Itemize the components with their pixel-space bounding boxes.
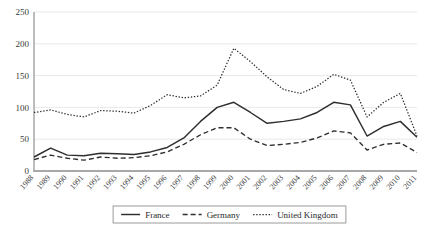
x-tick-label-2005: 2005: [301, 173, 318, 191]
x-tick-label-2011: 2011: [401, 173, 418, 191]
x-tick-label-1994: 1994: [118, 173, 135, 191]
x-tick-label-1989: 1989: [35, 173, 52, 191]
x-tick-label-1992: 1992: [85, 173, 102, 191]
x-tick-label-1996: 1996: [151, 173, 168, 191]
x-tick-label-1990: 1990: [51, 173, 68, 191]
y-tick-label-50: 50: [20, 134, 30, 144]
x-tick-label-2010: 2010: [384, 173, 401, 191]
x-tick-label-2002: 2002: [251, 173, 268, 191]
x-tick-label-1991: 1991: [68, 173, 85, 191]
x-tick-label-2006: 2006: [318, 173, 335, 191]
x-tick-label-2003: 2003: [268, 173, 285, 191]
x-tick-label-1997: 1997: [168, 173, 185, 191]
y-tick-label-100: 100: [16, 103, 30, 113]
x-tick-label-2000: 2000: [218, 173, 235, 191]
legend-label-germany: Germany: [207, 210, 241, 220]
legend-label-united-kingdom: United Kingdom: [277, 210, 338, 220]
x-tick-label-1998: 1998: [185, 173, 202, 191]
line-chart: 0501001502002501988198919901991199219931…: [0, 0, 426, 233]
y-tick-label-250: 250: [16, 7, 30, 17]
x-tick-label-2009: 2009: [368, 173, 385, 191]
x-tick-label-2004: 2004: [285, 173, 302, 191]
y-tick-label-200: 200: [16, 39, 30, 49]
x-tick-label-2001: 2001: [235, 173, 252, 191]
legend-label-france: France: [145, 210, 170, 220]
series-line-france: [34, 102, 417, 157]
x-tick-label-1993: 1993: [101, 173, 118, 191]
x-tick-label-1995: 1995: [135, 173, 152, 191]
x-tick-label-2008: 2008: [351, 173, 368, 191]
x-tick-label-1988: 1988: [18, 173, 35, 191]
x-tick-label-2007: 2007: [334, 173, 351, 191]
x-tick-label-1999: 1999: [201, 173, 218, 191]
chart-canvas: 0501001502002501988198919901991199219931…: [0, 0, 426, 233]
y-tick-label-150: 150: [16, 71, 30, 81]
